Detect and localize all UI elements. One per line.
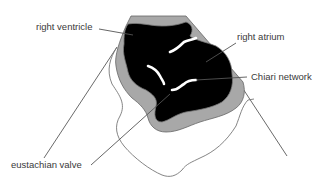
label-chiari-network: Chiari network (251, 71, 312, 82)
sector-line-left (44, 47, 117, 158)
heart-diagram: right ventricle right atrium Chiari netw… (0, 0, 329, 192)
label-right-atrium: right atrium (237, 31, 285, 42)
label-right-ventricle: right ventricle (36, 21, 93, 32)
label-eustachian-valve: eustachian valve (11, 159, 82, 170)
